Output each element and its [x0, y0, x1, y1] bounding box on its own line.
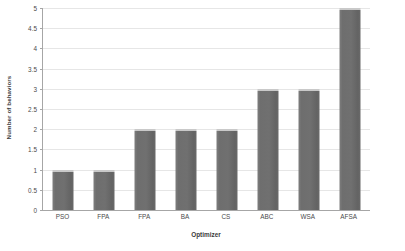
bar[interactable] [298, 89, 319, 210]
y-axis-tick-label: 3.5 [28, 65, 37, 72]
bar-slot [125, 8, 166, 210]
y-axis-tick-label: 0.5 [28, 186, 37, 193]
plot-area [42, 8, 370, 211]
y-axis-title-label: Number of behaviors [6, 76, 13, 140]
y-axis-title: Number of behaviors [0, 0, 18, 215]
y-axis-tick-labels: 00.511.522.533.544.55 [18, 8, 40, 211]
bar-slot [84, 8, 125, 210]
x-axis-tick-labels: PSOFPAFPABACSABCWSAAFSA [42, 213, 370, 227]
x-axis-tick-label: FPA [97, 213, 109, 220]
bar-chart-figure: Number of behaviors 00.511.522.533.544.5… [0, 0, 405, 251]
y-axis-tick-label: 2.5 [28, 106, 37, 113]
y-axis-tick-label: 1 [33, 166, 37, 173]
x-axis-tick-label: BA [181, 213, 190, 220]
x-axis-tick-label: WSA [300, 213, 315, 220]
bar-slot [166, 8, 207, 210]
bar-slot [43, 8, 84, 210]
bar[interactable] [257, 89, 278, 210]
bar[interactable] [216, 129, 237, 210]
bar-slot [207, 8, 248, 210]
x-axis-tick-label: AFSA [340, 213, 357, 220]
y-axis-tick-mark [40, 210, 43, 211]
x-axis-tick-label: ABC [260, 213, 273, 220]
x-axis-tick-label: PSO [56, 213, 70, 220]
y-axis-tick-label: 5 [33, 5, 37, 12]
bar[interactable] [53, 170, 74, 210]
x-axis-title: Optimizer [42, 231, 370, 238]
bar-slot [329, 8, 370, 210]
bar[interactable] [176, 129, 197, 210]
bar[interactable] [339, 8, 360, 210]
y-axis-tick-label: 4 [33, 45, 37, 52]
bars-group [43, 8, 370, 210]
bar-slot [247, 8, 288, 210]
bar-slot [288, 8, 329, 210]
y-axis-tick-label: 0 [33, 207, 37, 214]
bar[interactable] [135, 129, 156, 210]
y-axis-tick-label: 2 [33, 126, 37, 133]
bar[interactable] [94, 170, 115, 210]
y-axis-tick-label: 1.5 [28, 146, 37, 153]
y-axis-tick-label: 4.5 [28, 25, 37, 32]
x-axis-tick-label: FPA [138, 213, 150, 220]
x-axis-tick-label: CS [221, 213, 230, 220]
y-axis-tick-label: 3 [33, 85, 37, 92]
